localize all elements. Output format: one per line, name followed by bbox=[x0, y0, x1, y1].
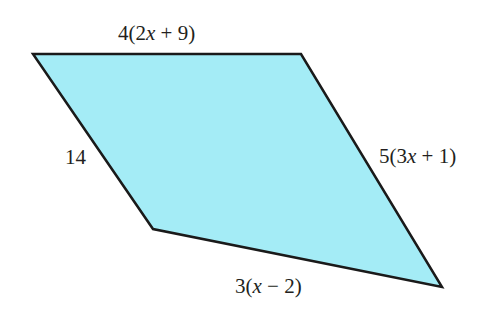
top-side-label: 4(2x + 9) bbox=[118, 21, 195, 45]
quadrilateral-diagram: 4(2x + 9) 5(3x + 1) 3(x − 2) 14 bbox=[0, 0, 502, 317]
right-side-label: 5(3x + 1) bbox=[379, 144, 456, 168]
bottom-side-label: 3(x − 2) bbox=[235, 274, 302, 298]
left-side-label: 14 bbox=[65, 145, 87, 169]
quadrilateral-shape bbox=[33, 54, 442, 287]
